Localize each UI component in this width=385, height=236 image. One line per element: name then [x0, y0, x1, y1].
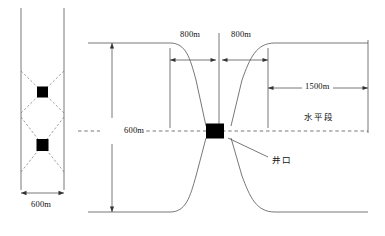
- label-800m-left: 800m: [180, 29, 200, 39]
- well-pattern-x-lower: [21, 117, 64, 172]
- dimension-800m-right: [222, 58, 268, 62]
- label-horizontal-section: 水平段: [304, 110, 335, 122]
- lateral-top-right-path: [231, 43, 368, 126]
- label-600m-width: 600m: [31, 199, 51, 209]
- left-width-dimension: [21, 191, 64, 195]
- lateral-bottom-left-path: [88, 138, 206, 212]
- wellhead-marker-lower: [37, 139, 49, 151]
- label-600m-vertical: 600m: [122, 125, 146, 135]
- dimension-800m-left: [170, 58, 216, 62]
- lateral-top-left-path: [88, 43, 206, 126]
- wellhead-marker-upper: [37, 87, 48, 98]
- wellhead-marker-center: [206, 124, 224, 139]
- dimension-600m-vertical: [110, 43, 114, 212]
- label-wellhead: 井口: [272, 153, 292, 165]
- right-panel-group: [78, 33, 368, 212]
- label-1500m: 1500m: [302, 81, 333, 91]
- well-pattern-x-upper: [21, 71, 64, 113]
- label-800m-right: 800m: [231, 29, 251, 39]
- well-pattern-diagram: 800m 800m 1500m 600m 600m 水平段 井口: [0, 0, 385, 236]
- left-panel-group: [21, 8, 64, 195]
